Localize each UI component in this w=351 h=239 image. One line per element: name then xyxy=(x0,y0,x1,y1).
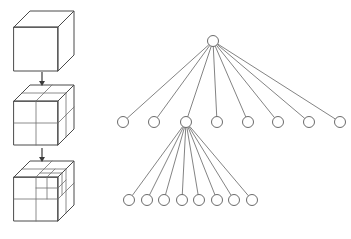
cube-level-0-top-face xyxy=(14,11,74,27)
cube-level-2 xyxy=(14,161,74,221)
edge-root-to-level1-8 xyxy=(218,44,336,119)
arrow-level-1-to-2 xyxy=(39,148,45,162)
edge-root-to-level1-6 xyxy=(216,45,274,117)
level2-node-2[interactable] xyxy=(142,195,153,206)
level1-node-5[interactable] xyxy=(243,117,254,128)
level2-node-1[interactable] xyxy=(124,195,135,206)
level2-node-5[interactable] xyxy=(194,195,205,206)
level2-node-8[interactable] xyxy=(247,195,258,206)
cube-level-1 xyxy=(14,85,74,145)
level1-node-1[interactable] xyxy=(118,117,129,128)
level1-node-6[interactable] xyxy=(273,117,284,128)
octree-figure-svg xyxy=(0,0,351,239)
level1-node-4[interactable] xyxy=(212,117,223,128)
level1-node-8[interactable] xyxy=(335,117,346,128)
edge-root-to-level1-3 xyxy=(188,46,212,117)
level2-node-6[interactable] xyxy=(212,195,223,206)
arrow-level-0-to-1 xyxy=(39,72,45,86)
level1-node-3[interactable] xyxy=(181,117,192,128)
level1-node-2[interactable] xyxy=(149,117,160,128)
figure-canvas xyxy=(0,0,351,239)
cube-level-0 xyxy=(14,11,74,71)
cube-level-0-front-face xyxy=(14,27,58,71)
cube-level-0-right-face xyxy=(58,11,74,71)
level1-node-7[interactable] xyxy=(304,117,315,128)
edge-level1-3-to-level2-8 xyxy=(190,126,249,196)
tree-nodes xyxy=(118,36,346,206)
level2-node-7[interactable] xyxy=(229,195,240,206)
level2-node-3[interactable] xyxy=(159,195,170,206)
edge-root-to-level1-4 xyxy=(213,46,216,116)
edge-root-to-level1-2 xyxy=(157,45,210,117)
root-node[interactable] xyxy=(208,36,219,47)
edge-root-to-level1-5 xyxy=(215,46,246,117)
edge-root-to-level1-1 xyxy=(127,45,209,119)
edge-level1-3-to-level2-6 xyxy=(188,127,215,195)
cube-subdivision-panel xyxy=(14,11,74,221)
edge-level1-3-to-level2-7 xyxy=(189,127,231,196)
level2-node-4[interactable] xyxy=(177,195,188,206)
edge-level1-3-to-level2-2 xyxy=(149,127,183,195)
edge-level1-3-to-level2-4 xyxy=(182,127,185,194)
